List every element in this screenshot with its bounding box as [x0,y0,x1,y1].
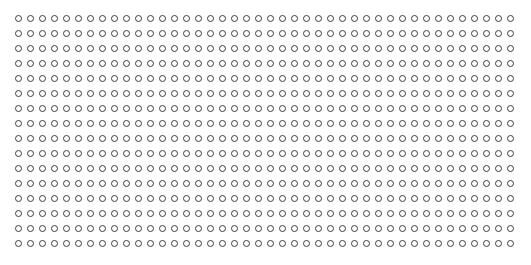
circle-icon [255,225,262,232]
circle-icon [135,135,142,142]
circle-icon [471,150,478,157]
circle-icon [75,45,82,52]
circle-icon [183,195,190,202]
circle-icon [507,45,514,52]
circle-icon [447,15,454,22]
circle-icon [195,15,202,22]
circle-icon [459,210,466,217]
circle-icon [387,30,394,37]
circle-icon [279,210,286,217]
circle-icon [315,180,322,187]
circle-icon [99,45,106,52]
circle-icon [147,165,154,172]
circle-icon [159,15,166,22]
circle-icon [399,135,406,142]
circle-icon [351,75,358,82]
circle-icon [507,210,514,217]
circle-icon [195,180,202,187]
circle-icon [315,30,322,37]
circle-icon [99,135,106,142]
circle-icon [315,90,322,97]
circle-icon [471,135,478,142]
circle-icon [255,75,262,82]
circle-icon [171,240,178,247]
circle-icon [351,240,358,247]
circle-icon [303,15,310,22]
circle-icon [171,195,178,202]
circle-icon [51,45,58,52]
circle-icon [303,90,310,97]
circle-icon [27,120,34,127]
circle-icon [363,120,370,127]
circle-icon [171,150,178,157]
circle-icon [483,135,490,142]
circle-icon [423,15,430,22]
circle-icon [471,240,478,247]
circle-icon [351,30,358,37]
circle-icon [387,105,394,112]
circle-icon [495,30,502,37]
circle-icon [171,180,178,187]
circle-icon [363,30,370,37]
circle-icon [447,90,454,97]
circle-icon [267,45,274,52]
circle-icon [339,180,346,187]
circle-icon [339,75,346,82]
circle-icon [423,135,430,142]
circle-icon [99,210,106,217]
circle-icon [87,15,94,22]
circle-icon [99,120,106,127]
circle-icon [267,75,274,82]
circle-icon [351,90,358,97]
circle-icon [507,60,514,67]
circle-icon [411,135,418,142]
circle-icon [231,75,238,82]
circle-icon [387,15,394,22]
circle-icon [87,180,94,187]
circle-icon [411,105,418,112]
circle-icon [15,90,22,97]
circle-icon [27,165,34,172]
circle-icon [291,75,298,82]
circle-icon [243,120,250,127]
circle-icon [327,105,334,112]
circle-icon [147,90,154,97]
circle-icon [219,15,226,22]
circle-icon [255,15,262,22]
circle-icon [375,45,382,52]
circle-icon [87,105,94,112]
circle-icon [411,195,418,202]
circle-icon [39,225,46,232]
circle-icon [435,45,442,52]
circle-icon [39,180,46,187]
circle-icon [63,165,70,172]
circle-icon [303,165,310,172]
circle-icon [195,210,202,217]
circle-icon [111,165,118,172]
circle-icon [351,135,358,142]
circle-icon [315,165,322,172]
circle-icon [495,120,502,127]
circle-icon [183,135,190,142]
circle-icon [279,240,286,247]
circle-icon [231,135,238,142]
circle-icon [255,45,262,52]
circle-icon [267,195,274,202]
circle-icon [207,135,214,142]
circle-icon [75,150,82,157]
circle-icon [135,210,142,217]
circle-icon [15,150,22,157]
circle-icon [315,75,322,82]
circle-icon [459,75,466,82]
circle-icon [99,195,106,202]
circle-icon [423,90,430,97]
circle-icon [27,60,34,67]
circle-icon [111,225,118,232]
circle-dot-grid [0,0,531,265]
circle-icon [495,150,502,157]
circle-icon [327,150,334,157]
circle-icon [87,120,94,127]
circle-icon [483,225,490,232]
circle-icon [99,75,106,82]
circle-icon [387,225,394,232]
